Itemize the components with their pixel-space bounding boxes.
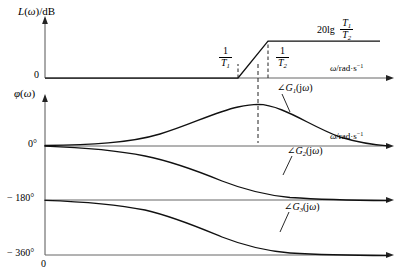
magnitude-zero-tick-label: 0	[34, 70, 39, 80]
phase-tick-minus-180: − 180°	[7, 193, 34, 203]
corner-frequency-2-label: 1 T2	[276, 46, 289, 69]
magnitude-x-axis-label: ω/rad·s−1	[330, 63, 363, 73]
phase-x-axis-label: ω/rad·s−1	[330, 131, 363, 141]
corner-frequency-1-label: 1 T1	[219, 46, 232, 69]
bode-diagram-figure: L(ω)/dB 0 1 T1 1 T2 20lg T1 T2 ω/rad·s−1…	[0, 0, 408, 278]
phase-tick-0: 0°	[28, 139, 37, 149]
phase-origin-label: 0	[41, 259, 46, 269]
curve-label-g1: ∠G1(jω)	[277, 83, 313, 95]
phase-panel	[42, 64, 394, 258]
curve-label-g2: ∠G2(jω)	[287, 146, 323, 158]
phase-curve-g2	[45, 146, 388, 200]
phase-y-axis-label: φ(ω)	[14, 88, 35, 99]
phase-y-axis	[42, 94, 48, 255]
curve-label-g3: ∠G3(jω)	[284, 202, 320, 214]
phase-tick-minus-360: − 360°	[7, 248, 34, 258]
magnitude-y-axis-label: L(ω)/dB	[18, 6, 55, 17]
high-frequency-gain-label: 20lg T1 T2	[317, 18, 353, 41]
phase-curve-g3	[45, 200, 388, 255]
magnitude-y-axis	[42, 16, 48, 78]
